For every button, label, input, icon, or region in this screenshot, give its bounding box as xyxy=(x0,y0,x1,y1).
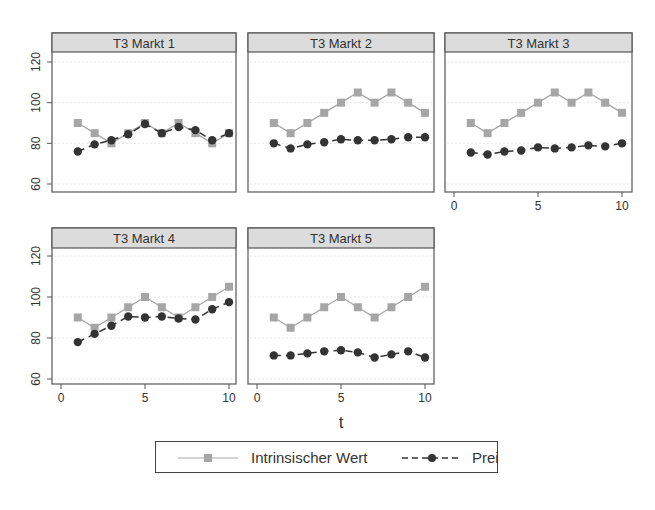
square-marker xyxy=(584,89,592,97)
circle-marker xyxy=(74,147,82,155)
circle-marker xyxy=(124,130,132,138)
legend: Intrinsischer Wert Preis xyxy=(155,441,498,473)
y-tick-label: 60 xyxy=(29,177,43,191)
x-axis-title: t xyxy=(339,413,344,432)
x-tick-label: 5 xyxy=(142,391,149,405)
square-marker xyxy=(354,89,362,97)
faceted-line-chart: T3 Markt 16080100120T3 Markt 2T3 Markt 3… xyxy=(0,0,655,510)
square-marker xyxy=(467,119,475,127)
square-marker xyxy=(225,283,233,291)
square-marker xyxy=(568,99,576,107)
square-marker xyxy=(421,283,429,291)
circle-marker xyxy=(303,140,311,148)
circle-marker xyxy=(191,126,199,134)
panel-2: T3 Markt 2 xyxy=(248,33,434,192)
circle-marker xyxy=(421,133,429,141)
y-tick-label: 100 xyxy=(29,287,43,307)
panel-frame xyxy=(52,33,236,192)
circle-marker xyxy=(320,138,328,146)
legend-label-intrinsic: Intrinsischer Wert xyxy=(251,449,368,466)
circle-marker xyxy=(584,141,592,149)
square-marker xyxy=(387,89,395,97)
circle-marker xyxy=(208,136,216,144)
legend-item-price: Preis xyxy=(402,449,499,466)
square-marker xyxy=(337,293,345,301)
panel-5: T3 Markt 50510 xyxy=(248,228,434,405)
x-tick-label: 10 xyxy=(615,199,629,213)
circle-marker-icon xyxy=(428,454,436,462)
square-marker xyxy=(107,314,115,322)
circle-marker xyxy=(158,129,166,137)
circle-marker xyxy=(483,150,491,158)
legend-label-price: Preis xyxy=(472,449,499,466)
square-marker xyxy=(158,303,166,311)
circle-marker xyxy=(387,350,395,358)
square-marker xyxy=(124,303,132,311)
panel-title: T3 Markt 4 xyxy=(113,231,175,246)
square-marker xyxy=(270,119,278,127)
square-marker xyxy=(303,314,311,322)
square-marker xyxy=(371,314,379,322)
square-marker xyxy=(74,119,82,127)
circle-marker xyxy=(225,129,233,137)
square-marker xyxy=(287,324,295,332)
legend-graphics: Intrinsischer Wert Preis xyxy=(156,442,499,474)
x-tick-label: 10 xyxy=(222,391,236,405)
panel-title: T3 Markt 1 xyxy=(113,36,175,51)
y-tick-label: 60 xyxy=(29,372,43,386)
panel-title: T3 Markt 2 xyxy=(310,36,372,51)
square-marker xyxy=(618,109,626,117)
panel-title: T3 Markt 3 xyxy=(507,36,569,51)
circle-marker xyxy=(174,314,182,322)
circle-marker xyxy=(107,322,115,330)
circle-marker xyxy=(158,312,166,320)
circle-marker xyxy=(354,136,362,144)
square-marker xyxy=(320,303,328,311)
circle-marker xyxy=(225,298,233,306)
square-marker xyxy=(551,89,559,97)
square-marker xyxy=(287,129,295,137)
circle-marker xyxy=(270,351,278,359)
circle-marker xyxy=(174,123,182,131)
y-tick-label: 120 xyxy=(29,52,43,72)
square-marker xyxy=(320,109,328,117)
y-tick-label: 80 xyxy=(29,136,43,150)
panel-1: T3 Markt 16080100120 xyxy=(29,33,236,192)
y-tick-label: 80 xyxy=(29,331,43,345)
circle-marker xyxy=(74,338,82,346)
circle-marker xyxy=(517,146,525,154)
circle-marker xyxy=(404,347,412,355)
square-marker xyxy=(534,99,542,107)
square-marker xyxy=(141,293,149,301)
x-tick-label: 0 xyxy=(451,199,458,213)
panel-3: T3 Markt 30510 xyxy=(445,33,632,213)
x-tick-label: 0 xyxy=(58,391,65,405)
square-marker xyxy=(421,109,429,117)
panel-frame xyxy=(248,33,434,192)
circle-marker xyxy=(208,305,216,313)
panel-frame xyxy=(52,228,236,384)
y-tick-label: 100 xyxy=(29,92,43,112)
x-tick-label: 0 xyxy=(254,391,261,405)
circle-marker xyxy=(404,133,412,141)
circle-marker xyxy=(320,347,328,355)
square-marker xyxy=(404,99,412,107)
circle-marker xyxy=(286,144,294,152)
square-marker xyxy=(404,293,412,301)
circle-marker xyxy=(191,315,199,323)
circle-marker xyxy=(141,313,149,321)
square-marker xyxy=(303,119,311,127)
panel-title: T3 Markt 5 xyxy=(310,231,372,246)
circle-marker xyxy=(286,351,294,359)
circle-marker xyxy=(500,147,508,155)
circle-marker xyxy=(141,120,149,128)
circle-marker xyxy=(107,136,115,144)
x-tick-label: 10 xyxy=(418,391,432,405)
square-marker xyxy=(517,109,525,117)
circle-marker xyxy=(90,330,98,338)
circle-marker xyxy=(303,349,311,357)
y-tick-label: 120 xyxy=(29,246,43,266)
square-marker xyxy=(191,303,199,311)
circle-marker xyxy=(90,140,98,148)
circle-marker xyxy=(567,143,575,151)
